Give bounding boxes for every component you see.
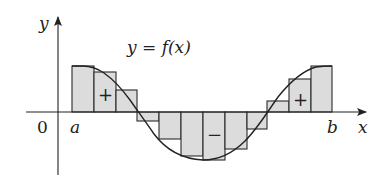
riemann-rectangle-6 bbox=[181, 112, 203, 156]
riemann-rectangle-10 bbox=[267, 101, 289, 112]
negative-sign-middle: − bbox=[207, 124, 222, 145]
riemann-sum-figure: y x 0 a b y = f(x) + − + bbox=[0, 0, 388, 183]
function-label: y = f(x) bbox=[126, 37, 191, 57]
a-label: a bbox=[70, 117, 80, 137]
riemann-rectangle-3 bbox=[116, 90, 137, 112]
origin-label: 0 bbox=[37, 117, 48, 137]
positive-sign-right: + bbox=[293, 89, 308, 110]
y-axis-label: y bbox=[38, 13, 49, 33]
positive-sign-left: + bbox=[98, 84, 113, 105]
riemann-rectangle-5 bbox=[159, 112, 181, 139]
riemann-rectangle-12 bbox=[311, 66, 332, 112]
riemann-rectangle-1 bbox=[72, 66, 94, 112]
x-axis-label: x bbox=[358, 117, 368, 137]
b-label: b bbox=[327, 117, 338, 137]
riemann-rectangle-8 bbox=[225, 112, 247, 149]
